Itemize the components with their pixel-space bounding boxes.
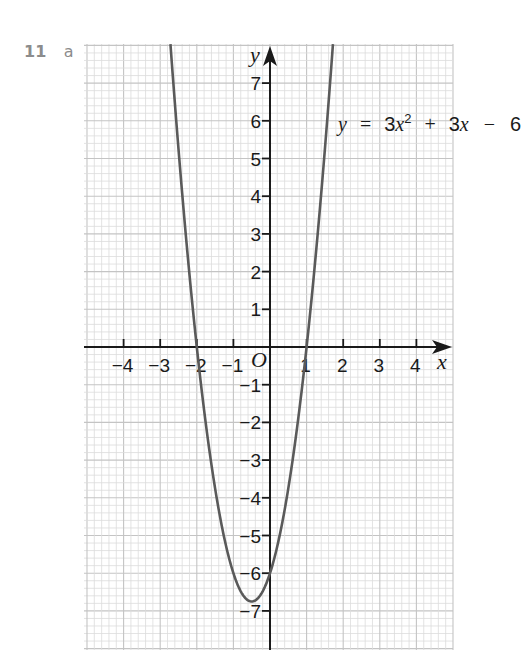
y-tick-label: 2 [250, 262, 261, 283]
y-tick-label: −7 [239, 601, 261, 622]
y-tick-label: 4 [250, 186, 261, 207]
y-tick-label: −2 [239, 412, 261, 433]
x-tick-label: −1 [222, 355, 244, 376]
y-axis-label: y [248, 42, 260, 67]
y-tick-label: 1 [250, 299, 261, 320]
y-tick-label: −4 [239, 488, 261, 509]
equation-label: y = 3x2 + 3x − 6 [336, 105, 521, 136]
y-tick-label: −3 [239, 450, 261, 471]
axes [84, 46, 452, 650]
x-tick-label: 4 [410, 355, 421, 376]
y-tick-label: 7 [250, 73, 261, 94]
x-tick-label: 2 [337, 355, 348, 376]
y-tick-label: 5 [250, 149, 261, 170]
y-tick-label: 3 [250, 224, 261, 245]
x-tick-label: −4 [112, 355, 134, 376]
x-tick-label: 3 [374, 355, 385, 376]
origin-label: O [251, 347, 267, 372]
x-tick-label: −2 [185, 355, 207, 376]
y-tick-label: 6 [250, 111, 261, 132]
x-tick-label: −3 [148, 355, 170, 376]
x-axis-label: x [436, 349, 447, 374]
y-tick-label: −1 [239, 375, 261, 396]
parabola-chart: −4−3−2−112347654321−1−2−3−4−5−6−7 x y O … [0, 0, 532, 654]
y-tick-label: −6 [239, 563, 261, 584]
y-tick-label: −5 [239, 526, 261, 547]
